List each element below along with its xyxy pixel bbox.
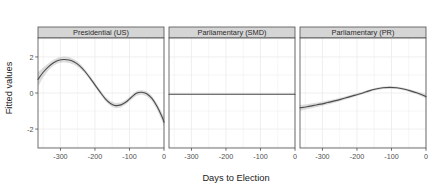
x-tick-label: 0 [424, 152, 428, 161]
panel-strip-label-3: Parliamentary (PR) [332, 28, 395, 37]
x-tick-label: -200 [88, 152, 102, 161]
x-tick-label: -100 [253, 152, 267, 161]
panel-3: Parliamentary (PR)-300-200-1000 [300, 27, 428, 161]
x-tick-label: -200 [219, 152, 233, 161]
x-tick-label: -100 [384, 152, 398, 161]
x-tick-label: 0 [293, 152, 297, 161]
panel-strip-label-2: Parliamentary (SMD) [198, 28, 267, 37]
panel-group: Presidential (US)-300-200-100020-2Parlia… [27, 27, 428, 161]
x-axis-title: Days to Election [202, 173, 269, 183]
faceted-line-chart: Presidential (US)-300-200-100020-2Parlia… [0, 0, 434, 188]
x-tick-label: -300 [315, 152, 329, 161]
x-tick-label: -300 [184, 152, 198, 161]
panel-2: Parliamentary (SMD)-300-200-1000 [169, 27, 297, 161]
y-tick-label: 2 [30, 53, 34, 62]
figure-container: Presidential (US)-300-200-100020-2Parlia… [0, 0, 434, 188]
y-tick-label: -2 [27, 125, 33, 134]
y-axis-title: Fitted values [4, 61, 14, 114]
x-tick-label: -200 [350, 152, 364, 161]
y-tick-label: 0 [30, 89, 34, 98]
x-tick-label: -300 [53, 152, 67, 161]
x-tick-label: -100 [122, 152, 136, 161]
panel-strip-label-1: Presidential (US) [73, 28, 129, 37]
x-tick-label: 0 [162, 152, 166, 161]
panel-1: Presidential (US)-300-200-100020-2 [27, 27, 166, 161]
